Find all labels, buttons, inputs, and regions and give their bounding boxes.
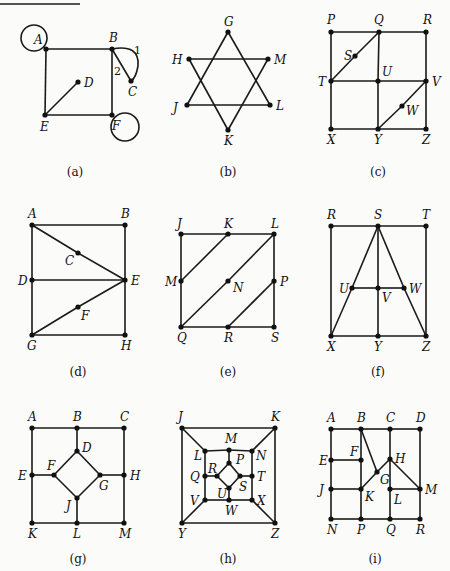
- edge-J-L: [182, 428, 205, 451]
- vertex-Q: [178, 324, 183, 329]
- vertex-E: [122, 277, 127, 282]
- vertex-label: Q: [177, 331, 187, 345]
- vertex-label: D: [81, 441, 92, 455]
- graph-h: JKLMNPQRSTUVWXYZ(h): [175, 410, 281, 566]
- vertex-M: [417, 486, 422, 491]
- vertex-label: B: [72, 410, 82, 424]
- vertex-R: [225, 324, 230, 329]
- vertex-J: [179, 425, 184, 430]
- edge-M-K: [228, 59, 268, 130]
- vertex-label: V: [190, 494, 200, 508]
- vertex-label: P: [326, 13, 336, 27]
- graph-d: ABCDEFGH(d): [17, 207, 140, 379]
- vertex-S: [271, 324, 276, 329]
- edge-S-W: [378, 226, 404, 288]
- graph-caption: (a): [67, 165, 84, 179]
- vertex-H: [122, 332, 127, 337]
- vertex-label: R: [326, 208, 336, 222]
- graph-b: GHMJLK(b): [170, 15, 287, 179]
- vertex-label: F: [349, 445, 359, 459]
- vertex-label: F: [46, 459, 56, 473]
- vertex-Y: [375, 333, 380, 338]
- vertex-A: [328, 426, 333, 431]
- edge-H-K: [189, 59, 228, 130]
- vertex-label: P: [356, 523, 366, 537]
- vertex-J: [74, 495, 79, 500]
- vertex-label: D: [83, 76, 94, 90]
- vertex-label: X: [326, 133, 336, 147]
- graph-caption: (g): [69, 552, 86, 566]
- vertex-M: [265, 56, 270, 61]
- vertex-label: D: [17, 274, 28, 288]
- vertex-S: [352, 53, 357, 58]
- graph-caption: (d): [69, 365, 86, 379]
- edge-E-D: [45, 82, 78, 115]
- vertex-Q: [376, 29, 381, 34]
- vertex-label: U: [339, 282, 350, 296]
- vertex-Y: [375, 126, 380, 131]
- vertex-label: R: [422, 13, 432, 27]
- vertex-M: [121, 520, 126, 525]
- vertex-label: T: [318, 75, 327, 89]
- vertex-label: J: [170, 101, 179, 115]
- edge-Q-N: [181, 281, 228, 327]
- vertex-label: W: [406, 104, 420, 118]
- vertex-label: U: [217, 487, 228, 501]
- edge-K-N: [252, 428, 275, 451]
- vertex-W: [399, 103, 404, 108]
- vertex-D: [74, 448, 79, 453]
- edge-S-U: [352, 226, 378, 288]
- graph-caption: (i): [368, 552, 381, 566]
- edge-Q-U: [378, 32, 379, 81]
- vertex-M: [226, 447, 231, 452]
- edge-D-F: [54, 451, 77, 475]
- vertex-label: G: [27, 339, 37, 353]
- vertex-F: [358, 457, 363, 462]
- vertex-label: F: [80, 309, 90, 323]
- vertex-V: [202, 497, 207, 502]
- vertex-label: F: [111, 119, 121, 133]
- vertex-label: M: [273, 53, 287, 67]
- vertex-label: Q: [386, 523, 396, 537]
- vertex-L: [74, 520, 79, 525]
- vertex-label: L: [275, 99, 284, 113]
- vertex-label: H: [394, 452, 406, 466]
- vertex-label: Q: [190, 470, 200, 484]
- vertex-label: V: [382, 291, 392, 305]
- vertex-label: M: [224, 432, 238, 446]
- vertex-S: [237, 473, 242, 478]
- vertex-N: [225, 278, 230, 283]
- vertex-G: [374, 469, 379, 474]
- vertex-label: M: [164, 275, 178, 289]
- vertex-S: [375, 223, 380, 228]
- vertex-label: A: [27, 410, 37, 424]
- vertex-label: E: [39, 120, 49, 134]
- vertex-F: [109, 112, 114, 117]
- vertex-Z: [272, 520, 277, 525]
- vertex-L: [387, 486, 392, 491]
- vertex-J: [328, 486, 333, 491]
- vertex-M: [178, 278, 183, 283]
- vertex-V: [375, 285, 380, 290]
- vertex-F: [75, 304, 80, 309]
- vertex-label: W: [225, 504, 239, 518]
- vertex-E: [42, 112, 47, 117]
- vertex-T: [328, 78, 333, 83]
- vertex-R: [417, 516, 422, 521]
- vertex-label: K: [364, 490, 375, 504]
- edge-J-G: [77, 475, 100, 498]
- vertex-R: [328, 223, 333, 228]
- graph-caption: (b): [219, 165, 236, 179]
- edge-F-E: [78, 280, 125, 307]
- vertex-label: B: [108, 31, 118, 45]
- vertex-label: Z: [421, 133, 431, 147]
- graph-caption: (c): [370, 165, 386, 179]
- vertex-W: [401, 285, 406, 290]
- vertex-label: J: [316, 483, 325, 497]
- vertex-L: [267, 102, 272, 107]
- edge-W-Y: [378, 106, 402, 129]
- vertex-U: [226, 485, 231, 490]
- vertex-label: G: [99, 479, 109, 493]
- vertex-label: W: [409, 282, 423, 296]
- edge-V-W: [402, 81, 426, 106]
